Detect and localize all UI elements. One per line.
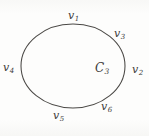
vertex-symbol: v	[114, 27, 120, 40]
vertex-subscript: 5	[60, 115, 65, 123]
vertex-subscript: 4	[10, 67, 15, 75]
vertex-symbol: v	[53, 109, 59, 122]
vertex-label-v4: v4	[3, 62, 14, 73]
vertex-label-v2: v2	[132, 64, 143, 75]
cycle-figure: v1 v3 v2 v4 v5 v6 C3	[0, 0, 149, 136]
vertex-label-v3: v3	[114, 28, 125, 39]
vertex-label-v6: v6	[101, 101, 112, 112]
vertex-subscript: 2	[139, 69, 144, 77]
cycle-ellipse	[21, 24, 125, 108]
cycle-name-subscript: 3	[104, 67, 109, 76]
vertex-subscript: 1	[75, 15, 80, 23]
vertex-label-v5: v5	[53, 110, 64, 121]
cycle-name-symbol: C	[95, 61, 104, 75]
vertex-symbol: v	[132, 63, 138, 76]
vertex-subscript: 3	[121, 33, 126, 41]
vertex-symbol: v	[68, 9, 74, 22]
vertex-label-v1: v1	[68, 10, 79, 21]
vertex-symbol: v	[3, 61, 9, 74]
vertex-subscript: 6	[108, 106, 113, 114]
vertex-symbol: v	[101, 100, 107, 113]
cycle-name-label: C3	[95, 62, 109, 74]
